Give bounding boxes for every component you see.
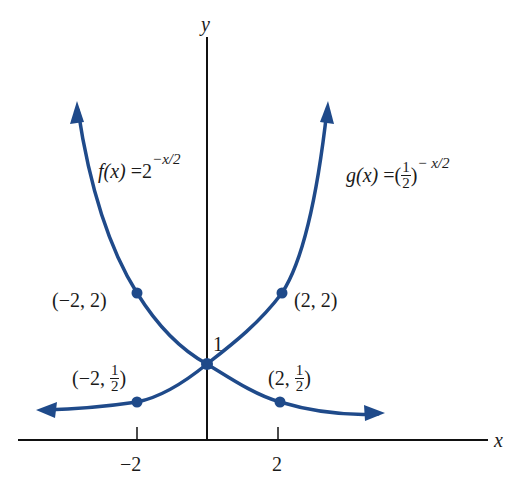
x-axis-label: x	[494, 430, 503, 450]
point-2-2	[277, 288, 288, 299]
x-tick-label-2: 2	[272, 454, 282, 474]
point-neg2-2	[132, 288, 143, 299]
g-exponent: − x/2	[417, 155, 449, 171]
point-label-2-2: (2, 2)	[294, 290, 337, 310]
g-name: g(x)	[346, 164, 378, 186]
g-base-fraction: 12	[401, 160, 411, 191]
point-neg2-half	[132, 397, 143, 408]
f-equals: =2	[126, 160, 152, 182]
arrow-up-left-icon	[70, 101, 84, 124]
half-fraction: 12	[110, 363, 120, 394]
arrow-left-icon	[36, 402, 57, 418]
point-label-neg2-half: (−2, 12)	[72, 365, 126, 396]
point-label-2-half: (2, 12)	[268, 365, 311, 396]
arrow-right-icon	[364, 405, 385, 421]
function-g-label: g(x) =(12)− x/2	[346, 162, 450, 193]
g-equals: =(	[378, 164, 401, 186]
point-label-neg2-2: (−2, 2)	[52, 290, 107, 310]
x-tick-label-neg2: −2	[120, 454, 141, 474]
f-name: f(x)	[98, 160, 126, 182]
f-exponent: −x/2	[152, 151, 180, 167]
arrow-up-right-icon	[320, 101, 334, 124]
point-0-1	[201, 358, 213, 370]
function-f-label: f(x) =2−x/2	[98, 161, 181, 181]
exponential-graph: y x −2 2 1 f(x) =2−x/2 g(x) =(12)− x/2 (…	[0, 0, 511, 499]
point-2-half	[275, 397, 286, 408]
graph-canvas	[0, 0, 511, 499]
half-fraction: 12	[295, 363, 305, 394]
y-intercept-label: 1	[213, 334, 223, 354]
y-axis-label: y	[201, 14, 210, 34]
